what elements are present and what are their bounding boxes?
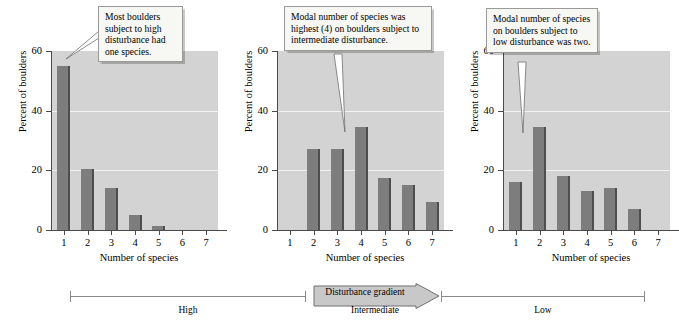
gradient-tick-left xyxy=(70,291,71,302)
gradient-line-right xyxy=(441,296,645,297)
gradient-label-low: Low xyxy=(503,305,583,315)
disturbance-gradient-strip: Disturbance gradient High Intermediate L… xyxy=(0,275,679,324)
disturbance-gradient-figure: 0204060 1234567 Percent of boulders Numb… xyxy=(0,0,679,324)
gradient-tick-mid-left xyxy=(305,291,306,302)
gradient-tick-right xyxy=(644,291,645,302)
gradient-label-intermediate: Intermediate xyxy=(330,305,420,315)
gradient-tick-mid-right xyxy=(441,291,442,302)
gradient-label-high: High xyxy=(148,305,228,315)
callout-2: Modal number of species was highest (4) … xyxy=(284,6,432,51)
gradient-arrow-label: Disturbance gradient xyxy=(313,287,417,297)
chart-panel-intermediate-disturbance: 0204060 1234567 Percent of boulders Numb… xyxy=(226,0,452,275)
gradient-line-left xyxy=(70,296,305,297)
chart-panel-high-disturbance: 0204060 1234567 Percent of boulders Numb… xyxy=(0,0,226,275)
chart-panel-low-disturbance: 0204060 1234567 Percent of boulders Numb… xyxy=(452,0,678,275)
callout-3: Modal number of species on boulders subj… xyxy=(486,8,598,53)
callout-1: Most boulders subject to high disturbanc… xyxy=(98,6,183,62)
